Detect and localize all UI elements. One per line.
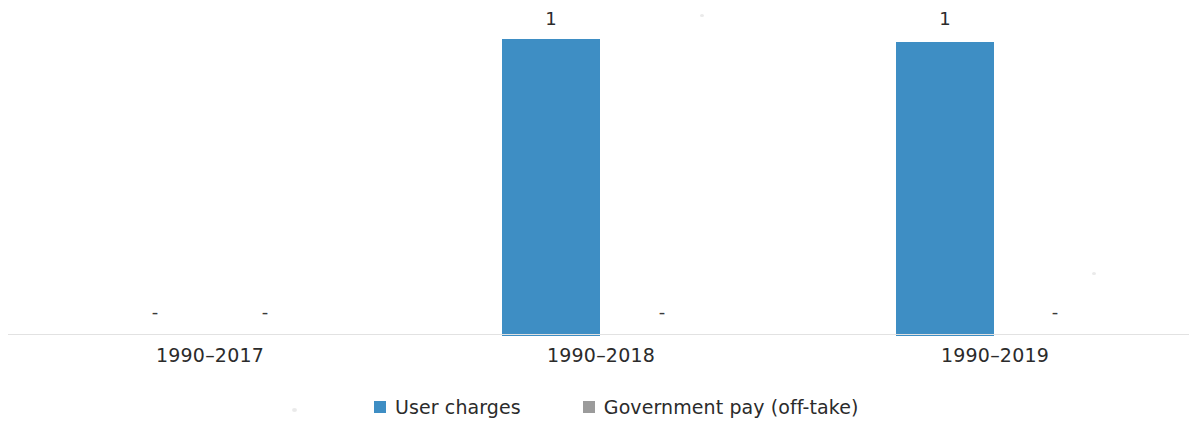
category-axis-line	[8, 334, 1189, 335]
scan-speckle	[1092, 272, 1096, 275]
scan-speckle	[292, 408, 297, 412]
legend-swatch-gray-icon	[583, 401, 595, 413]
bar-chart: - - 1 - 1 - 1990–2017 1990–2018 1990–201…	[0, 0, 1197, 421]
x-axis-label-1990-2018: 1990–2018	[501, 344, 701, 366]
scan-speckle	[700, 14, 704, 17]
zero-dash-government-1990-2017: -	[241, 303, 289, 321]
zero-dash-government-1990-2019: -	[1031, 303, 1079, 321]
legend-label-government-pay: Government pay (off-take)	[604, 396, 859, 418]
legend-item-government-pay[interactable]: Government pay (off-take)	[583, 396, 859, 418]
legend-item-user-charges[interactable]: User charges	[374, 396, 521, 418]
x-axis-label-1990-2017: 1990–2017	[110, 344, 310, 366]
zero-dash-user-1990-2017: -	[131, 303, 179, 321]
x-axis-label-1990-2019: 1990–2019	[895, 344, 1095, 366]
chart-legend: User charges Government pay (off-take)	[0, 392, 1197, 421]
plot-area: - - 1 - 1 -	[0, 0, 1197, 336]
legend-swatch-blue-icon	[374, 401, 386, 413]
bar-user-charges-1990-2018[interactable]	[502, 39, 600, 336]
legend-label-user-charges: User charges	[395, 396, 521, 418]
bar-label-user-charges-1990-2019: 1	[921, 10, 969, 28]
zero-dash-government-1990-2018: -	[638, 303, 686, 321]
bar-user-charges-1990-2019[interactable]	[896, 42, 994, 336]
bar-label-user-charges-1990-2018: 1	[527, 10, 575, 28]
